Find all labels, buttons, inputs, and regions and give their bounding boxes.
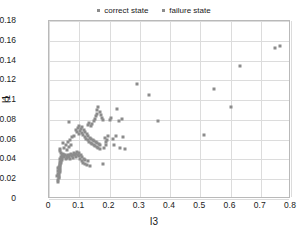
- legend-label: failure state: [169, 6, 210, 15]
- data-point: [119, 146, 122, 149]
- data-point: [57, 167, 60, 170]
- data-point: [135, 83, 138, 86]
- data-point: [102, 163, 105, 166]
- data-point: [212, 88, 215, 91]
- chart-legend: correct state failure state: [0, 6, 308, 15]
- legend-marker-icon: [162, 9, 165, 12]
- gridline-vertical: [79, 21, 80, 197]
- data-point: [69, 143, 72, 146]
- legend-item-failure-state: failure state: [162, 6, 210, 15]
- data-point: [72, 134, 75, 137]
- gridline-vertical: [170, 21, 171, 197]
- y-tick-label: 0.02: [0, 173, 16, 183]
- legend-label: correct state: [104, 6, 148, 15]
- legend-marker-icon: [97, 9, 100, 12]
- data-point: [122, 135, 125, 138]
- y-tick-label: 0.18: [0, 15, 16, 25]
- gridline-horizontal: [49, 21, 289, 22]
- data-point: [120, 117, 123, 120]
- data-point: [91, 122, 94, 125]
- gridline-horizontal: [49, 120, 289, 121]
- gridline-vertical: [140, 21, 141, 197]
- gridline-vertical: [261, 21, 262, 197]
- gridline-vertical: [200, 21, 201, 197]
- data-point: [110, 116, 113, 119]
- data-point: [274, 46, 277, 49]
- data-point: [238, 64, 241, 67]
- scatter-chart: correct state failure state 00.020.040.0…: [0, 0, 308, 237]
- data-point: [106, 138, 109, 141]
- x-tick-label: 0.8: [270, 200, 308, 210]
- data-point: [107, 134, 110, 137]
- gridline-horizontal: [49, 41, 289, 42]
- gridline-vertical: [231, 21, 232, 197]
- data-point: [103, 146, 106, 149]
- y-tick-label: 0.14: [0, 55, 16, 65]
- data-point: [60, 151, 63, 154]
- data-point: [68, 138, 71, 141]
- data-point: [114, 134, 117, 137]
- x-axis-title: I3: [0, 216, 308, 227]
- data-point: [87, 160, 90, 163]
- gridline-horizontal: [49, 179, 289, 180]
- data-point: [123, 147, 126, 150]
- gridline-vertical: [110, 21, 111, 197]
- plot-area: [48, 20, 290, 198]
- y-tick-label: 0.04: [0, 153, 16, 163]
- data-point: [98, 147, 101, 150]
- data-point: [57, 176, 60, 179]
- data-point: [88, 165, 91, 168]
- data-point: [105, 143, 108, 146]
- data-point: [147, 94, 150, 97]
- data-point: [202, 133, 205, 136]
- gridline-horizontal: [49, 61, 289, 62]
- y-tick-label: 0: [0, 193, 16, 203]
- data-point: [56, 179, 59, 182]
- data-point: [99, 143, 102, 146]
- y-tick-label: 0.08: [0, 114, 16, 124]
- data-point: [66, 148, 69, 151]
- data-point: [101, 118, 104, 121]
- data-point: [113, 143, 116, 146]
- y-tick-label: 0.12: [0, 74, 16, 84]
- gridline-horizontal: [49, 100, 289, 101]
- gridline-vertical: [49, 21, 50, 197]
- y-tick-label: 0.06: [0, 134, 16, 144]
- y-tick-label: 0.16: [0, 35, 16, 45]
- gridline-horizontal: [49, 80, 289, 81]
- gridline-vertical: [291, 21, 292, 197]
- legend-item-correct-state: correct state: [97, 6, 148, 15]
- data-point: [278, 44, 281, 47]
- data-point: [111, 137, 114, 140]
- data-point: [116, 108, 119, 111]
- data-point: [59, 147, 62, 150]
- y-axis-title: I1: [1, 95, 12, 103]
- data-point: [229, 106, 232, 109]
- data-point: [67, 120, 70, 123]
- data-point: [97, 106, 100, 109]
- data-point: [156, 119, 159, 122]
- data-point: [93, 117, 96, 120]
